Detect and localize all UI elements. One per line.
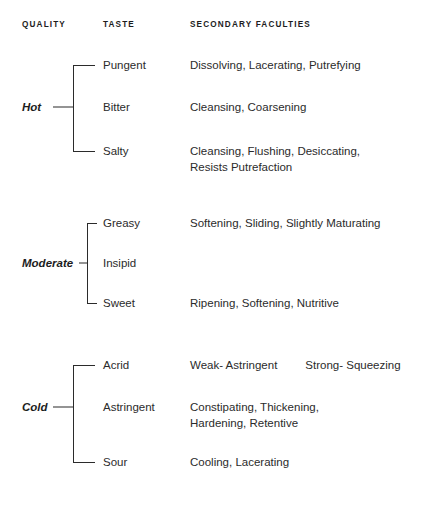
- column-header-row: QUALITY TASTE SECONDARY FACULTIES: [0, 20, 422, 34]
- bracket-arm-cold-top: [73, 365, 95, 366]
- secondary-faculties-pungent: Dissolving, Lacerating, Putrefying: [190, 57, 361, 73]
- bracket-arm-hot-top: [73, 65, 95, 66]
- bracket-arm-cold-bottom: [73, 462, 95, 463]
- bracket-spine-moderate: [87, 223, 88, 303]
- faculty-line: Constipating, Thickening,: [190, 401, 319, 413]
- bracket-spine-cold: [73, 365, 74, 462]
- taste-label-insipid: Insipid: [103, 255, 136, 271]
- taste-label-greasy: Greasy: [103, 215, 140, 231]
- taste-label-sweet: Sweet: [103, 295, 135, 311]
- faculty-segment: Strong- Squeezing: [305, 359, 400, 371]
- bracket-connector-cold: [53, 407, 73, 408]
- quality-group-cold: ColdAcridWeak- AstringentStrong- Squeezi…: [0, 352, 422, 487]
- bracket-arm-moderate-bottom: [87, 303, 97, 304]
- taste-label-acrid: Acrid: [103, 357, 129, 373]
- taste-label-pungent: Pungent: [103, 57, 146, 73]
- faculty-line: Resists Putrefaction: [190, 161, 292, 173]
- faculty-line: Cleansing, Coarsening: [190, 101, 306, 113]
- faculty-line: Ripening, Softening, Nutritive: [190, 297, 339, 309]
- bracket-connector-hot: [53, 107, 73, 108]
- faculty-line: Softening, Sliding, Slightly Maturating: [190, 217, 381, 229]
- faculty-line: Hardening, Retentive: [190, 417, 298, 429]
- secondary-faculties-salty: Cleansing, Flushing, Desiccating,Resists…: [190, 143, 360, 175]
- taste-label-salty: Salty: [103, 143, 129, 159]
- quality-label-hot: Hot: [22, 101, 41, 113]
- faculty-segment: Weak- Astringent: [190, 359, 277, 371]
- secondary-faculties-sour: Cooling, Lacerating: [190, 454, 289, 470]
- bracket-arm-moderate-top: [87, 223, 97, 224]
- taste-label-astringent: Astringent: [103, 399, 155, 415]
- bracket-arm-hot-bottom: [73, 151, 95, 152]
- faculty-line: Cooling, Lacerating: [190, 456, 289, 468]
- quality-group-moderate: ModerateGreasySoftening, Sliding, Slight…: [0, 210, 422, 320]
- secondary-faculties-bitter: Cleansing, Coarsening: [190, 99, 306, 115]
- taste-label-bitter: Bitter: [103, 99, 130, 115]
- bracket-spine-hot: [73, 65, 74, 151]
- bracket-connector-moderate: [79, 263, 87, 264]
- faculty-line: Cleansing, Flushing, Desiccating,: [190, 145, 360, 157]
- secondary-faculties-astringent: Constipating, Thickening,Hardening, Rete…: [190, 399, 319, 431]
- quality-group-hot: HotPungentDissolving, Lacerating, Putref…: [0, 52, 422, 182]
- column-header-quality: QUALITY: [22, 20, 66, 29]
- taste-label-sour: Sour: [103, 454, 127, 470]
- secondary-faculties-greasy: Softening, Sliding, Slightly Maturating: [190, 215, 381, 231]
- secondary-faculties-sweet: Ripening, Softening, Nutritive: [190, 295, 339, 311]
- column-header-secondary-faculties: SECONDARY FACULTIES: [190, 20, 311, 29]
- quality-label-cold: Cold: [22, 401, 48, 413]
- faculty-line: Dissolving, Lacerating, Putrefying: [190, 59, 361, 71]
- secondary-faculties-acrid: Weak- AstringentStrong- Squeezing: [190, 357, 401, 373]
- column-header-taste: TASTE: [103, 20, 135, 29]
- quality-label-moderate: Moderate: [22, 257, 73, 269]
